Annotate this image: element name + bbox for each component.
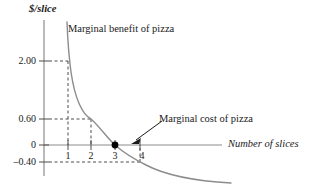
equilibrium-point-marker xyxy=(112,142,119,149)
x-tick-label-2: 2 xyxy=(81,151,101,161)
marginal-benefit-cost-chart: $/slice Number of slices Marginal benefi… xyxy=(0,0,311,192)
marginal-cost-label: Marginal cost of pizza xyxy=(159,114,253,125)
y-tick-label-200: 2.00 xyxy=(0,56,36,66)
y-tick-label-0: 0 xyxy=(0,140,36,150)
x-tick-label-4: 4 xyxy=(132,151,152,161)
y-tick-label-060: 0.60 xyxy=(0,114,36,124)
x-tick-label-1: 1 xyxy=(58,151,78,161)
x-axis-title: Number of slices xyxy=(228,139,299,150)
y-axis-title: $/slice xyxy=(29,4,56,15)
marginal-benefit-label: Marginal benefit of pizza xyxy=(68,24,174,35)
x-tick-label-3: 3 xyxy=(105,151,125,161)
y-tick-label-neg040: –0.40 xyxy=(0,157,36,167)
